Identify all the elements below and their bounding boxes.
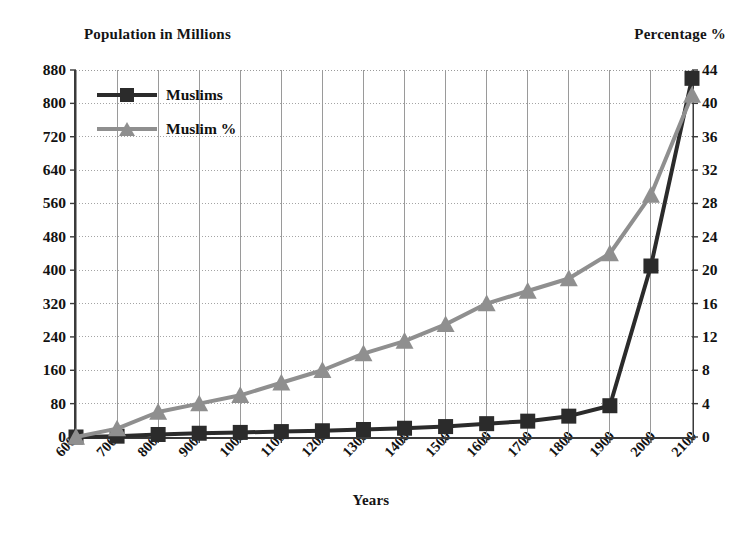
left-tick-320: 320 <box>2 295 66 313</box>
right-tick-32: 32 <box>702 161 742 179</box>
left-tick-880: 880 <box>2 61 66 79</box>
data-point-muslims-2000 <box>643 259 658 274</box>
left-tick-240: 240 <box>2 328 66 346</box>
right-tick-16: 16 <box>702 295 742 313</box>
chart-legend: Muslims Muslim % <box>96 78 236 146</box>
right-tick-8: 8 <box>702 361 742 379</box>
right-tick-36: 36 <box>702 128 742 146</box>
data-point-muslim--2100 <box>683 86 701 103</box>
right-axis-title: Percentage % <box>634 26 726 43</box>
right-tick-28: 28 <box>702 194 742 212</box>
data-point-muslims-1200 <box>315 423 330 438</box>
right-tick-40: 40 <box>702 94 742 112</box>
left-tick-640: 640 <box>2 161 66 179</box>
right-tick-4: 4 <box>702 395 742 413</box>
left-tick-160: 160 <box>2 361 66 379</box>
data-point-muslim--1500 <box>437 315 455 332</box>
legend-swatch-muslims <box>96 86 158 104</box>
legend-item-muslim-percent: Muslim % <box>96 112 236 146</box>
right-tick-24: 24 <box>702 228 742 246</box>
right-tick-44: 44 <box>702 61 742 79</box>
data-point-muslims-1600 <box>479 416 494 431</box>
left-tick-80: 80 <box>2 395 66 413</box>
left-tick-720: 720 <box>2 128 66 146</box>
data-point-muslim--1800 <box>560 270 578 287</box>
population-percentage-line-chart: Population in Millions Percentage % 0801… <box>0 0 742 533</box>
left-tick-560: 560 <box>2 194 66 212</box>
legend-swatch-muslim-percent <box>96 120 158 138</box>
data-point-muslims-800 <box>151 427 166 442</box>
left-tick-800: 800 <box>2 94 66 112</box>
right-tick-20: 20 <box>702 261 742 279</box>
left-tick-480: 480 <box>2 228 66 246</box>
data-point-muslims-1300 <box>356 422 371 437</box>
data-point-muslims-1800 <box>561 409 576 424</box>
right-tick-0: 0 <box>702 428 742 446</box>
x-axis-title: Years <box>0 492 742 509</box>
legend-label-muslim-percent: Muslim % <box>166 120 236 138</box>
data-point-muslims-2100 <box>685 71 700 86</box>
data-point-muslims-1900 <box>602 398 617 413</box>
right-tick-12: 12 <box>702 328 742 346</box>
left-tick-400: 400 <box>2 261 66 279</box>
data-point-muslims-1100 <box>274 424 289 439</box>
data-point-muslims-1400 <box>397 421 412 436</box>
left-axis-title: Population in Millions <box>84 26 231 43</box>
legend-label-muslims: Muslims <box>166 86 223 104</box>
data-point-muslims-1500 <box>438 419 453 434</box>
data-point-muslims-1000 <box>233 425 248 440</box>
legend-item-muslims: Muslims <box>96 78 236 112</box>
data-point-muslims-900 <box>192 426 207 441</box>
data-point-muslims-1700 <box>520 414 535 429</box>
data-point-muslim--2000 <box>642 186 660 203</box>
